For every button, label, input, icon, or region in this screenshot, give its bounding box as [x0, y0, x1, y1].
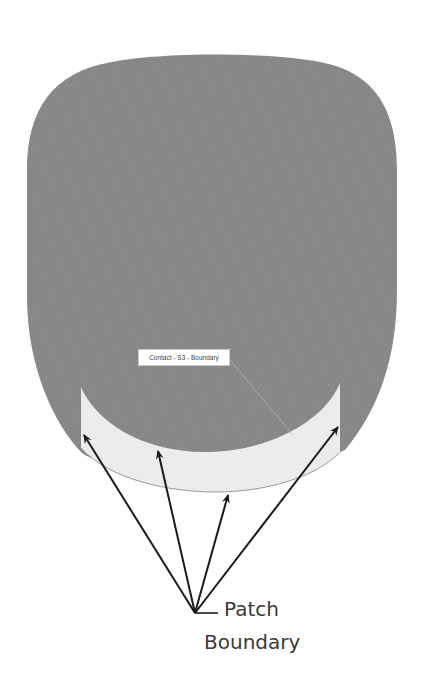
arrow-3: [195, 495, 228, 613]
surface-label: Contact - S3 - Boundary: [138, 349, 230, 366]
callout-text-line1: Patch: [224, 597, 279, 621]
callout-text-line2: Boundary: [204, 630, 300, 654]
diagram-canvas: [0, 0, 425, 686]
